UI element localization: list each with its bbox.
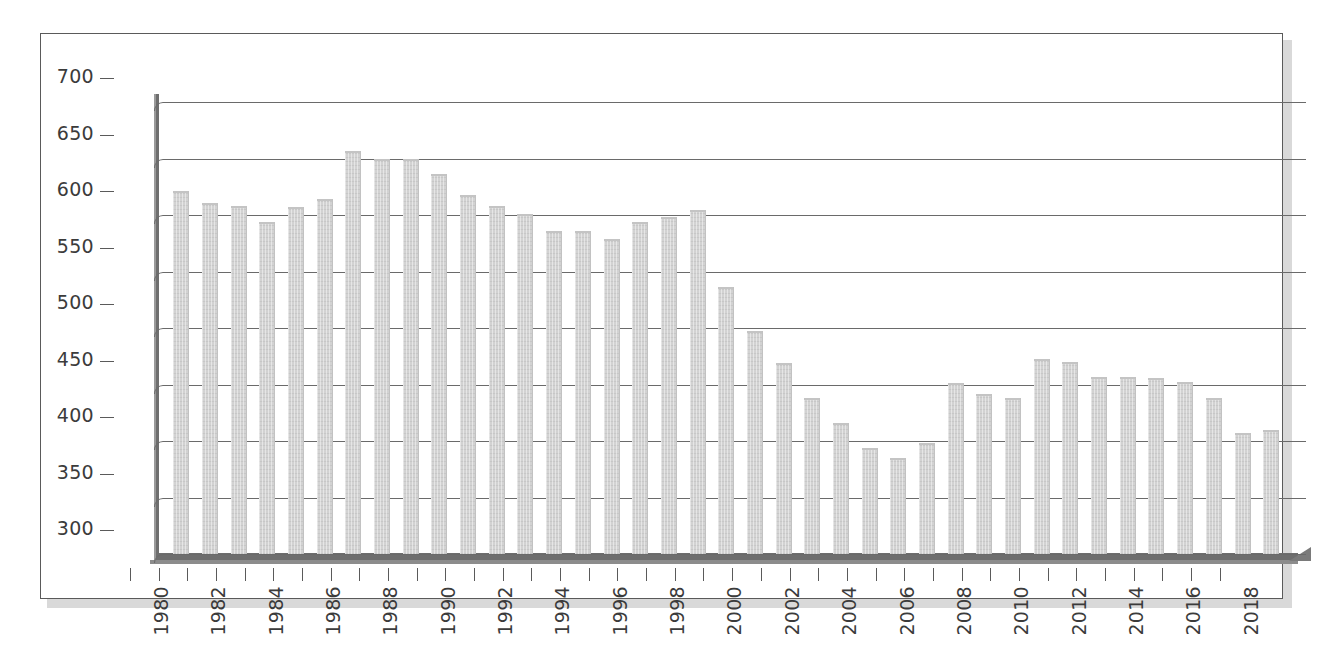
category-axis-label: 2004 — [838, 586, 860, 636]
category-axis-tick — [1048, 568, 1049, 581]
chart-screenshot: 300350400450500550600650700 198019821984… — [0, 0, 1336, 648]
category-axis-tick — [1105, 568, 1106, 581]
category-axis-tick — [818, 568, 819, 581]
category-axis-label: 2008 — [953, 586, 975, 636]
category-axis-tick — [847, 568, 848, 581]
category-axis-label: 2016 — [1182, 586, 1204, 636]
category-axis-tick — [302, 568, 303, 581]
category-axis-tick — [990, 568, 991, 581]
category-axis-label: 1984 — [265, 586, 287, 636]
category-axis-tick — [703, 568, 704, 581]
category-axis-label: 1982 — [207, 586, 229, 636]
category-axis-tick — [617, 568, 618, 581]
category-axis-label: 1996 — [609, 586, 631, 636]
category-axis-tick — [245, 568, 246, 581]
category-axis-tick — [962, 568, 963, 581]
category-axis-label: 1986 — [322, 586, 344, 636]
category-axis-label: 2018 — [1240, 586, 1262, 636]
category-axis-tick — [1220, 568, 1221, 581]
category-axis-label: 1988 — [379, 586, 401, 636]
category-axis-tick — [503, 568, 504, 581]
category-axis-tick — [331, 568, 332, 581]
category-axis-tick — [560, 568, 561, 581]
category-axis-tick — [216, 568, 217, 581]
category-axis-tick — [359, 568, 360, 581]
category-axis-label: 2012 — [1068, 586, 1090, 636]
category-axis-label: 1994 — [551, 586, 573, 636]
category-axis-label: 1998 — [666, 586, 688, 636]
category-axis-tick — [1162, 568, 1163, 581]
category-axis-tick — [732, 568, 733, 581]
category-axis-tick — [1191, 568, 1192, 581]
category-axis-tick — [445, 568, 446, 581]
chart-panel-frame: 300350400450500550600650700 198019821984… — [40, 33, 1283, 599]
category-axis-tick — [417, 568, 418, 581]
category-axis-tick — [1134, 568, 1135, 581]
category-axis-tick — [1019, 568, 1020, 581]
category-axis-tick — [159, 568, 160, 581]
category-axis-label: 2006 — [896, 586, 918, 636]
category-axis-label: 2000 — [723, 586, 745, 636]
category-axis-tick — [790, 568, 791, 581]
category-axis-tick — [761, 568, 762, 581]
category-axis-tick — [589, 568, 590, 581]
category-axis-tick — [1076, 568, 1077, 581]
category-axis-label: 2002 — [781, 586, 803, 636]
category-axis-label: 1980 — [150, 586, 172, 636]
category-axis-tick — [130, 568, 131, 581]
category-axis-label: 2010 — [1010, 586, 1032, 636]
category-axis-tick — [531, 568, 532, 581]
category-axis-tick — [273, 568, 274, 581]
category-axis-labels-group: 1980198219841986198819901992199419961998… — [41, 34, 1282, 598]
category-axis-tick — [388, 568, 389, 581]
category-axis-tick — [474, 568, 475, 581]
category-axis-tick — [933, 568, 934, 581]
category-axis-label: 1992 — [494, 586, 516, 636]
category-axis-tick — [187, 568, 188, 581]
category-axis-tick — [876, 568, 877, 581]
category-axis-label: 2014 — [1125, 586, 1147, 636]
category-axis-tick — [646, 568, 647, 581]
category-axis-tick — [675, 568, 676, 581]
category-axis-label: 1990 — [437, 586, 459, 636]
category-axis-tick — [904, 568, 905, 581]
